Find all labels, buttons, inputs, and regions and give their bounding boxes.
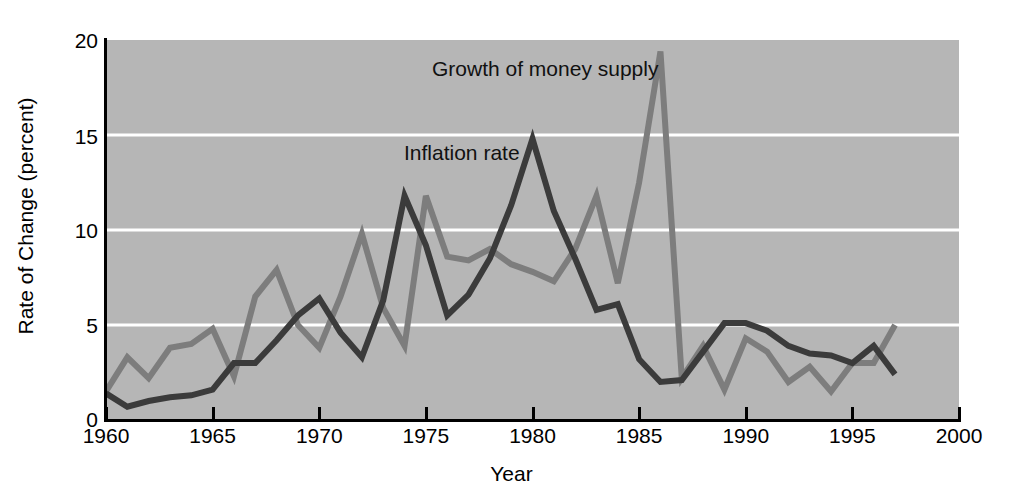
x-tick-mark-1990 xyxy=(745,407,748,420)
plot-svg xyxy=(106,40,959,420)
y-tick-20: 20 xyxy=(2,30,98,51)
chart-figure: 20 15 10 5 0 Rate of Change (percent) 19… xyxy=(0,0,1023,504)
x-tick-mark-1970 xyxy=(318,407,321,420)
x-tick-label-1975: 1975 xyxy=(403,425,450,446)
plot-area xyxy=(106,40,959,420)
x-tick-mark-2000 xyxy=(958,407,961,420)
x-axis-title: Year xyxy=(0,462,1023,486)
x-tick-mark-1995 xyxy=(851,407,854,420)
x-tick-label-1960: 1960 xyxy=(83,425,130,446)
y-axis-title: Rate of Change (percent) xyxy=(14,51,38,381)
x-tick-label-1985: 1985 xyxy=(616,425,663,446)
x-tick-label-1995: 1995 xyxy=(829,425,876,446)
x-tick-mark-1960 xyxy=(105,407,108,420)
x-tick-mark-1965 xyxy=(212,407,215,420)
x-tick-mark-1975 xyxy=(425,407,428,420)
gridlines xyxy=(106,135,959,325)
x-tick-mark-1980 xyxy=(532,407,535,420)
x-tick-mark-1985 xyxy=(638,407,641,420)
annotation-inflation-rate: Inflation rate xyxy=(404,142,520,163)
x-tick-label-1980: 1980 xyxy=(509,425,556,446)
x-tick-label-2000: 2000 xyxy=(936,425,983,446)
annotation-money-supply: Growth of money supply xyxy=(432,58,658,79)
x-tick-label-1990: 1990 xyxy=(722,425,769,446)
y-axis-line xyxy=(104,38,107,422)
x-tick-label-1970: 1970 xyxy=(296,425,343,446)
x-tick-label-1965: 1965 xyxy=(189,425,236,446)
